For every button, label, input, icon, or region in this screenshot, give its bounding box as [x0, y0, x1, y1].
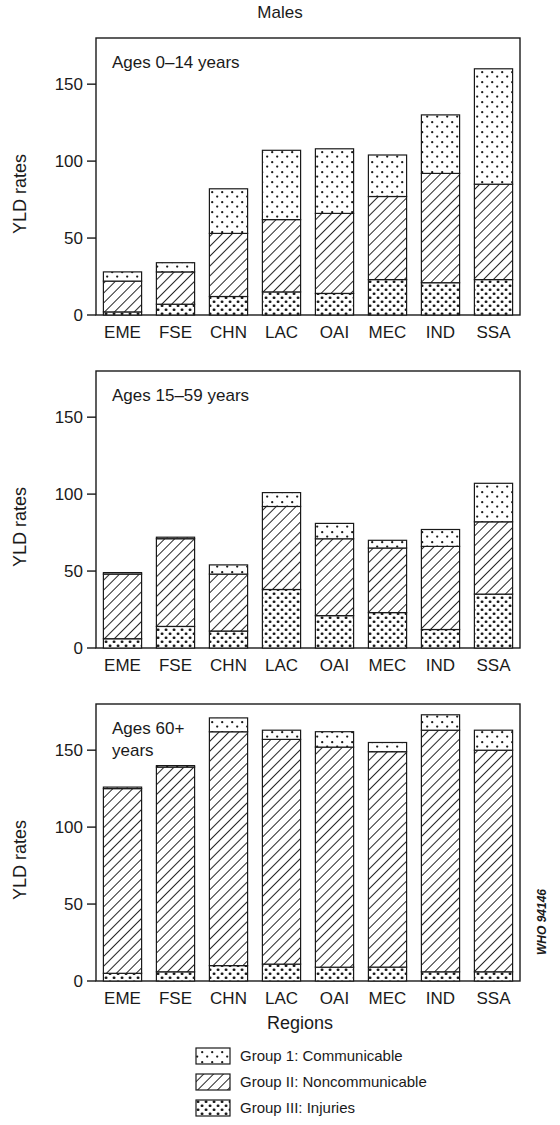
bar-segment [474, 280, 512, 315]
x-tick-label: CHN [210, 989, 247, 1008]
bar-segment [315, 539, 353, 616]
bar-segment [474, 594, 512, 648]
bar-segment [421, 530, 459, 547]
y-axis-label-panel-2: YLD rates [10, 487, 30, 567]
x-tick-label: CHN [210, 323, 247, 342]
bar-segment [315, 747, 353, 967]
bar-segment [262, 292, 300, 315]
y-ticks-panel-3: 050100150 [55, 741, 96, 991]
y-axis-label-panel-3: YLD rates [10, 820, 30, 900]
bar-segment [156, 304, 194, 315]
bar-segment [474, 972, 512, 981]
bar-segment [368, 197, 406, 280]
bar-segment [103, 639, 141, 648]
bar-segment [156, 272, 194, 304]
bar-segment [421, 730, 459, 972]
bar-segment [209, 631, 247, 648]
bar-segment [421, 630, 459, 649]
bar-segment [209, 732, 247, 966]
x-tick-label: SSA [476, 323, 511, 342]
x-tick-label: MEC [369, 989, 407, 1008]
bar-segment [368, 613, 406, 648]
legend-label: Group II: Noncommunicable [240, 1073, 427, 1090]
bar-segment [156, 627, 194, 649]
bar-segment [368, 280, 406, 315]
y-tick-label: 150 [55, 741, 83, 760]
bar-segment [421, 173, 459, 282]
y-tick-label: 50 [64, 895, 83, 914]
y-axis-label-panel-1: YLD rates [10, 154, 30, 234]
bar-segment [156, 539, 194, 627]
x-tick-label: OAI [320, 989, 349, 1008]
panel-15-59: Ages 15–59 years YLD rates 050100150 EME… [10, 371, 520, 675]
legend-label: Group 1: Communicable [240, 1047, 403, 1064]
bar-segment [103, 789, 141, 974]
x-tick-label: FSE [159, 989, 192, 1008]
x-tick-label: MEC [369, 323, 407, 342]
x-tick-label: EME [104, 656, 141, 675]
bar-segment [103, 787, 141, 789]
y-ticks-panel-1: 050100150 [55, 75, 96, 325]
bar-segment [315, 732, 353, 747]
who-source-tag: WHO 94146 [535, 889, 549, 955]
x-tick-label: IND [426, 989, 455, 1008]
panel-label-ages-60-plus-line1: Ages 60+ [112, 719, 184, 738]
bar-segment [315, 523, 353, 538]
x-tick-labels-panel-2: EMEFSECHNLACOAIMECINDSSA [104, 656, 511, 675]
bars-panel-1 [103, 69, 512, 315]
y-tick-label: 0 [74, 972, 83, 991]
x-tick-label: LAC [265, 656, 298, 675]
bar-segment [156, 766, 194, 768]
y-tick-label: 150 [55, 75, 83, 94]
bar-segment [103, 574, 141, 639]
bar-segment [421, 546, 459, 629]
figure-title: Males [257, 3, 302, 22]
bars-panel-2 [103, 483, 512, 648]
bar-segment [156, 537, 194, 539]
bar-segment [103, 272, 141, 281]
bar-segment [262, 739, 300, 964]
x-tick-label: LAC [265, 989, 298, 1008]
bar-segment [262, 220, 300, 292]
bar-segment [103, 973, 141, 981]
x-tick-label: EME [104, 323, 141, 342]
bars-panel-3 [103, 715, 512, 981]
x-axis-label: Regions [267, 1013, 333, 1033]
bar-segment [209, 718, 247, 732]
bar-segment [474, 750, 512, 972]
bar-segment [474, 184, 512, 279]
panel-0-14: Ages 0–14 years YLD rates 050100150 EMEF… [10, 38, 520, 342]
bar-segment [368, 967, 406, 981]
bar-segment [315, 213, 353, 293]
x-tick-label: SSA [476, 989, 511, 1008]
bar-segment [474, 522, 512, 594]
bar-segment [103, 281, 141, 312]
bar-segment [368, 743, 406, 752]
x-tick-label: SSA [476, 656, 511, 675]
y-ticks-panel-2: 050100150 [55, 408, 96, 658]
panel-60-plus: Ages 60+ years YLD rates 050100150 EMEFS… [10, 704, 520, 1033]
y-tick-label: 100 [55, 152, 83, 171]
bar-segment [474, 69, 512, 184]
bar-segment [262, 730, 300, 739]
panel-label-ages-0-14: Ages 0–14 years [112, 53, 240, 72]
y-tick-label: 0 [74, 639, 83, 658]
bar-segment [315, 294, 353, 316]
x-tick-label: IND [426, 323, 455, 342]
legend-swatch [196, 1100, 230, 1116]
bar-segment [421, 283, 459, 315]
y-tick-label: 150 [55, 408, 83, 427]
legend-swatch [196, 1048, 230, 1064]
bar-segment [262, 590, 300, 649]
bar-segment [315, 149, 353, 214]
bar-segment [368, 752, 406, 967]
x-tick-label: CHN [210, 656, 247, 675]
bar-segment [262, 964, 300, 981]
bar-segment [421, 972, 459, 981]
x-tick-label: MEC [369, 656, 407, 675]
bar-segment [209, 233, 247, 296]
bar-segment [368, 155, 406, 197]
bar-segment [103, 573, 141, 575]
bar-segment [368, 548, 406, 613]
panel-label-ages-60-plus-line2: years [112, 741, 154, 760]
